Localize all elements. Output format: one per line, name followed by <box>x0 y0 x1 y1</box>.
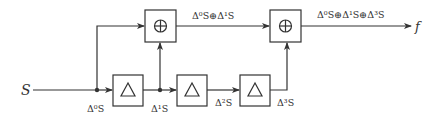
circle-plus-icon-1 <box>155 20 167 32</box>
signal-label-d0: Δ⁰S <box>87 103 104 114</box>
circle-plus-icon-2 <box>280 20 292 32</box>
line-delay3-sum2 <box>270 43 287 90</box>
input-label: S <box>21 82 31 98</box>
junction-dot-2 <box>158 88 162 92</box>
junction-dot-1 <box>95 88 99 92</box>
block-diagram: S f Δ⁰S Δ¹S Δ²S Δ³S Δ⁰S⊕Δ¹S Δ⁰S⊕Δ¹S⊕Δ³S <box>0 0 441 118</box>
sum2-output-label: Δ⁰S⊕Δ¹S⊕Δ³S <box>317 9 384 20</box>
signal-label-d3: Δ³S <box>277 97 294 108</box>
sum1-output-label: Δ⁰S⊕Δ¹S <box>192 10 234 21</box>
signal-label-d1: Δ¹S <box>151 103 168 114</box>
signal-label-d2: Δ²S <box>215 97 232 108</box>
delay-block-2 <box>177 75 207 106</box>
delay-block-1 <box>113 75 143 106</box>
delta-icon-1 <box>121 83 135 96</box>
delay-block-3 <box>240 75 270 106</box>
line-j1-sum1 <box>97 26 144 90</box>
delta-icon-2 <box>185 83 199 96</box>
output-label: f <box>414 19 422 34</box>
delta-icon-3 <box>248 83 262 96</box>
